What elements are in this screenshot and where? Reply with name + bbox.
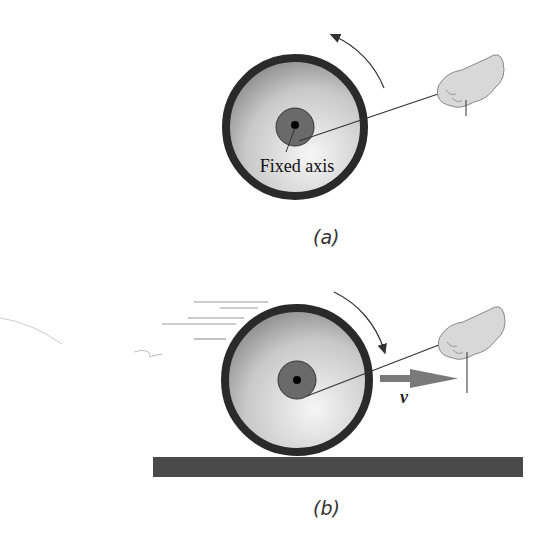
- velocity-arrow: [380, 369, 458, 388]
- velocity-label: v: [400, 387, 409, 407]
- caption-b: (b): [313, 497, 340, 519]
- fixed-axis-label: Fixed axis: [260, 156, 335, 176]
- axle-a: [291, 121, 299, 129]
- axle-b: [293, 376, 301, 384]
- smudge-mark: [134, 350, 162, 356]
- caption-a: (a): [313, 226, 339, 248]
- panel-a: Fixed axis: [226, 36, 504, 196]
- ground-surface: [153, 457, 523, 477]
- panel-b: v: [0, 292, 523, 477]
- smudge-mark-2: [0, 318, 62, 344]
- diagram-canvas: Fixed axis v: [0, 0, 543, 557]
- hand-icon-a: [437, 55, 504, 116]
